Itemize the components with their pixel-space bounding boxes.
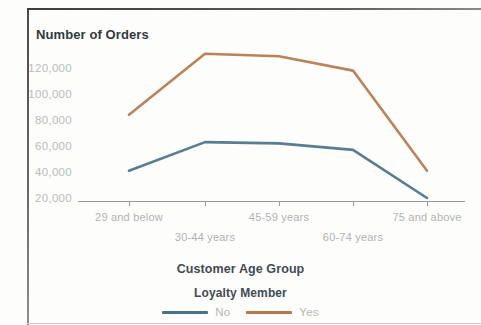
legend-item-no[interactable]: No: [162, 306, 230, 318]
chart-page: Number of Orders 120,000 100,000 80,000 …: [0, 0, 481, 325]
legend-label-no: No: [215, 306, 230, 318]
x-tick-mark: [205, 201, 206, 206]
x-axis-line: [78, 201, 465, 202]
x-tick-mark: [279, 201, 280, 206]
legend-label-yes: Yes: [299, 306, 318, 318]
x-tick-mark: [427, 201, 428, 206]
legend-swatch-no: [162, 311, 208, 314]
x-axis-title: Customer Age Group: [0, 262, 481, 276]
x-tick-label-2: 45-59 years: [249, 211, 309, 223]
legend: No Yes: [0, 306, 481, 318]
x-tick-label-1: 30-44 years: [175, 231, 235, 243]
legend-item-yes[interactable]: Yes: [246, 306, 318, 318]
series-line-no: [129, 142, 427, 198]
plot-area: [0, 0, 481, 325]
x-tick-label-4: 75 and above: [392, 211, 461, 223]
x-tick-label-3: 60-74 years: [323, 231, 383, 243]
x-tick-label-0: 29 and below: [95, 211, 163, 223]
legend-title: Loyalty Member: [0, 286, 481, 300]
x-tick-mark: [353, 201, 354, 206]
x-tick-mark: [129, 201, 130, 206]
legend-swatch-yes: [246, 311, 292, 314]
